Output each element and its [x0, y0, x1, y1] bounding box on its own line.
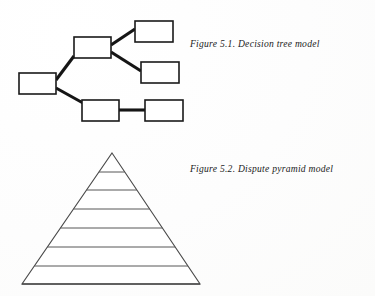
dispute-pyramid-diagram: [0, 0, 375, 296]
pyramid-outline: [22, 153, 200, 284]
figure-caption-dispute-pyramid: Figure 5.2. Dispute pyramid model: [190, 163, 333, 174]
figure-page: Figure 5.1. Decision tree model Figure 5…: [0, 0, 375, 296]
